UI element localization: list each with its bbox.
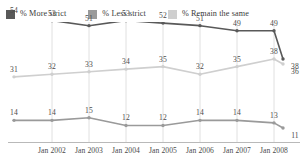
data-point-marker — [161, 22, 164, 25]
data-point-marker — [161, 65, 164, 68]
data-point-label: 35 — [233, 54, 241, 63]
data-point-marker — [12, 75, 15, 78]
data-point-label: 49 — [233, 18, 241, 27]
data-point-label: 36 — [291, 67, 299, 76]
data-point-label: 54 — [10, 6, 18, 15]
x-axis-tick-label: Jan 2008 — [260, 146, 288, 155]
legend-item-label: % More strict — [20, 10, 66, 18]
x-axis-tick-labels: Jan 2002Jan 2003Jan 2004Jan 2005Jan 2006… — [0, 146, 306, 162]
data-point-marker — [272, 121, 275, 124]
data-point-marker — [50, 73, 53, 76]
data-point-marker — [161, 124, 164, 127]
data-point-marker — [87, 24, 90, 27]
data-point-marker — [272, 57, 275, 60]
series-line — [14, 118, 283, 128]
data-point-label: 32 — [48, 62, 56, 71]
data-point-label: 38 — [270, 46, 278, 55]
data-point-label: 51 — [196, 13, 204, 22]
data-point-marker — [235, 29, 238, 32]
data-point-label: 11 — [291, 131, 299, 140]
data-point-label: 53 — [48, 8, 56, 17]
data-point-label: 52 — [159, 11, 167, 20]
data-point-label: 32 — [196, 62, 204, 71]
x-axis-tick-label: Jan 2004 — [112, 146, 140, 155]
x-axis-tick-label: Jan 2002 — [38, 146, 66, 155]
data-point-label: 15 — [85, 105, 93, 114]
legend-item-less-strict: % Less strict — [88, 10, 146, 19]
data-point-marker — [124, 67, 127, 70]
data-point-label: 31 — [10, 64, 18, 73]
data-point-marker — [198, 24, 201, 27]
data-point-marker — [272, 29, 275, 32]
x-axis-tick-label: Jan 2003 — [75, 146, 103, 155]
data-point-marker — [87, 70, 90, 73]
data-point-marker — [12, 119, 15, 122]
chart-svg — [0, 22, 306, 142]
data-point-marker — [235, 119, 238, 122]
data-point-label: 13 — [270, 110, 278, 119]
data-point-label: 49 — [270, 18, 278, 27]
data-point-marker — [198, 73, 201, 76]
legend-item-remain-the-same: % Remain the same — [168, 10, 249, 19]
data-point-marker — [87, 116, 90, 119]
data-point-label: 14 — [48, 108, 56, 117]
data-point-label: 14 — [233, 108, 241, 117]
data-point-label: 12 — [122, 113, 130, 122]
data-point-label: 53 — [122, 8, 130, 17]
data-point-label: 14 — [10, 108, 18, 117]
series-line — [14, 22, 283, 59]
data-point-label: 33 — [85, 59, 93, 68]
chart-plot-area — [0, 22, 306, 142]
x-axis-tick-label: Jan 2005 — [149, 146, 177, 155]
x-axis-tick-label: Jan 2006 — [186, 146, 214, 155]
data-point-marker — [198, 119, 201, 122]
data-point-marker — [281, 126, 284, 129]
data-point-label: 51 — [85, 13, 93, 22]
chart-figure: % More strict % Less strict % Remain the… — [0, 0, 306, 164]
legend-swatch-icon — [168, 10, 177, 19]
legend-item-label: % Remain the same — [182, 10, 249, 18]
data-point-marker — [50, 119, 53, 122]
x-axis-tick-label: Jan 2007 — [223, 146, 251, 155]
data-point-label: 14 — [196, 108, 204, 117]
data-point-label: 12 — [159, 113, 167, 122]
data-point-marker — [281, 62, 284, 65]
data-point-label: 34 — [122, 57, 130, 66]
data-point-marker — [235, 65, 238, 68]
x-axis-line — [8, 142, 300, 143]
data-point-marker — [124, 124, 127, 127]
data-point-marker — [281, 57, 284, 60]
data-point-label: 35 — [159, 54, 167, 63]
